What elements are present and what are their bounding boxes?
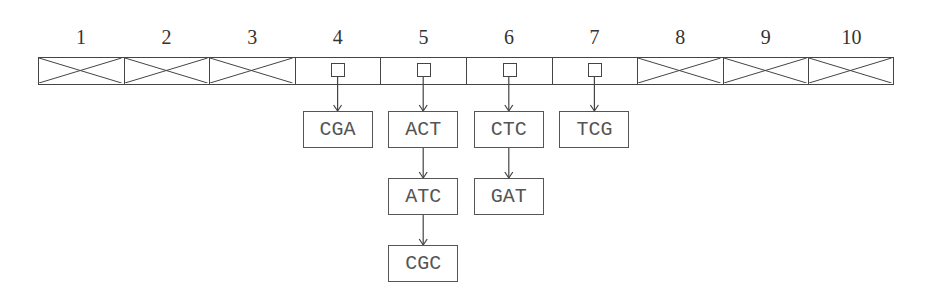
chain-node: CGA <box>303 111 373 148</box>
chain-node: CGC <box>388 245 458 282</box>
hash-table-diagram: 12345678910 CGAACTATCCGCCTCGATTCG <box>0 0 933 302</box>
chain-node: GAT <box>474 178 544 215</box>
chain-node: ACT <box>388 111 458 148</box>
chain-arrows <box>0 0 933 302</box>
chain-node: TCG <box>559 111 629 148</box>
chain-node: ATC <box>388 178 458 215</box>
chain-node: CTC <box>474 111 544 148</box>
